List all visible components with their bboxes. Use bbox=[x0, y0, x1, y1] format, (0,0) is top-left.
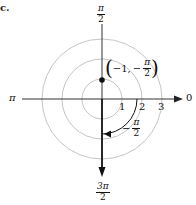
arc-label-num: π bbox=[132, 118, 140, 127]
arc-label-fraction: π 2 bbox=[132, 118, 140, 138]
arc-label-sign: − bbox=[122, 123, 130, 134]
polar-diagram bbox=[0, 0, 196, 205]
point-theta-fraction: π 2 bbox=[143, 58, 151, 78]
point-theta-den: 2 bbox=[144, 69, 150, 78]
tick-label-2: 2 bbox=[139, 101, 145, 112]
label-3pi-over-2: 3π 2 bbox=[96, 182, 110, 202]
label-pi: π bbox=[9, 92, 16, 103]
point-theta-sign: − bbox=[133, 63, 141, 74]
point-theta-num: π bbox=[143, 58, 151, 67]
plotted-point bbox=[99, 77, 105, 83]
label-bottom-num: 3π bbox=[96, 182, 110, 191]
arc-arrow-icon bbox=[104, 131, 111, 138]
paren-close: ) bbox=[151, 58, 159, 78]
tick-label-3: 3 bbox=[158, 101, 164, 112]
arc-label: − π 2 bbox=[122, 118, 140, 138]
label-top-num: π bbox=[97, 4, 105, 13]
ray-arrow-down-icon bbox=[99, 167, 106, 177]
axis-arrow-right-icon bbox=[174, 96, 183, 103]
point-label: ( −1, − π 2 ) bbox=[105, 58, 159, 78]
label-zero: 0 bbox=[186, 92, 192, 103]
label-top-den: 2 bbox=[98, 15, 104, 24]
label-bottom-den: 2 bbox=[100, 193, 106, 202]
arc-label-den: 2 bbox=[133, 129, 139, 138]
paren-open: ( bbox=[105, 58, 113, 78]
tick-label-1: 1 bbox=[119, 101, 125, 112]
label-pi-over-2: π 2 bbox=[97, 4, 105, 24]
point-r-label: −1, bbox=[113, 63, 131, 74]
